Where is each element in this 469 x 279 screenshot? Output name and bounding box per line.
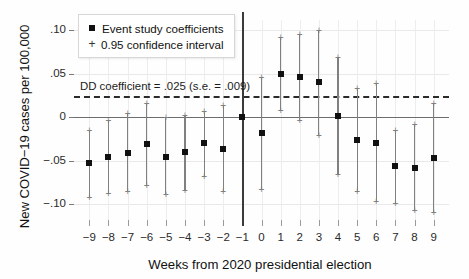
- confidence-interval-cap: +: [163, 193, 169, 194]
- coefficient-point: [105, 154, 111, 160]
- coefficient-point: [125, 150, 131, 156]
- x-axis-title: Weeks from 2020 presidential election: [60, 257, 460, 272]
- chart-legend: Event study coefficients + 0.95 confiden…: [78, 14, 235, 58]
- confidence-interval-cap: +: [86, 197, 92, 198]
- x-tick-mark: [319, 220, 320, 226]
- confidence-interval-cap: +: [86, 129, 92, 130]
- dd-coefficient-annotation: DD coefficient = .025 (s.e. = .009): [80, 80, 250, 92]
- y-tick-mark: [69, 30, 74, 31]
- confidence-interval-cap: +: [182, 190, 188, 191]
- x-tick-mark: [166, 220, 167, 226]
- coefficient-point: [86, 160, 92, 166]
- confidence-interval-cap: +: [354, 87, 360, 88]
- confidence-interval-cap: +: [278, 110, 284, 111]
- legend-label-coefficients: Event study coefficients: [102, 22, 224, 35]
- x-tick-mark: [128, 220, 129, 226]
- confidence-interval-cap: +: [278, 36, 284, 37]
- legend-item-confidence-interval: + 0.95 confidence interval: [87, 36, 224, 52]
- plus-marker-icon: +: [88, 37, 96, 51]
- confidence-interval-cap: +: [220, 105, 226, 106]
- coefficient-point: [201, 140, 207, 146]
- x-tick-mark: [185, 220, 186, 226]
- x-tick-mark: [376, 220, 377, 226]
- coefficient-point: [297, 74, 303, 80]
- confidence-interval-cap: +: [297, 120, 303, 121]
- confidence-interval-cap: +: [412, 124, 418, 125]
- confidence-interval-cap: +: [412, 209, 418, 210]
- confidence-interval-cap: +: [431, 212, 437, 213]
- coefficient-point: [412, 165, 418, 171]
- confidence-interval-cap: +: [220, 191, 226, 192]
- confidence-interval-cap: +: [373, 200, 379, 201]
- coefficient-point: [278, 71, 284, 77]
- y-tick-mark: [69, 74, 74, 75]
- coefficient-point: [182, 149, 188, 155]
- confidence-interval-cap: +: [431, 102, 437, 103]
- coefficient-point: [431, 155, 437, 161]
- coefficient-point: [354, 137, 360, 143]
- coefficient-point: [373, 140, 379, 146]
- confidence-interval-cap: +: [259, 77, 265, 78]
- y-tick-label: −.10: [43, 197, 66, 209]
- confidence-interval-cap: +: [316, 134, 322, 135]
- x-tick-mark: [147, 220, 148, 226]
- confidence-interval-cap: +: [201, 175, 207, 176]
- coefficient-point: [335, 113, 341, 119]
- x-tick-mark: [204, 220, 205, 226]
- confidence-interval-cap: +: [297, 33, 303, 34]
- confidence-interval-cap: +: [316, 30, 322, 31]
- y-tick-label: 0: [60, 110, 66, 122]
- event-study-chart: New COVID−19 cases per 100,000 Weeks fro…: [0, 0, 469, 279]
- x-tick-mark: [434, 220, 435, 226]
- y-tick-mark: [69, 161, 74, 162]
- y-tick-label: .05: [50, 67, 66, 79]
- confidence-interval-cap: +: [125, 113, 131, 114]
- confidence-interval-cap: +: [106, 120, 112, 121]
- confidence-interval-cap: +: [125, 191, 131, 192]
- confidence-interval-cap: +: [259, 188, 265, 189]
- confidence-interval-cap: +: [373, 82, 379, 83]
- confidence-interval-cap: +: [393, 202, 399, 203]
- confidence-interval-cap: +: [201, 111, 207, 112]
- coefficient-point: [144, 141, 150, 147]
- coefficient-point: [392, 163, 398, 169]
- legend-item-coefficients: Event study coefficients: [87, 20, 224, 36]
- coefficient-point: [239, 114, 245, 120]
- x-tick-mark: [223, 220, 224, 226]
- x-tick-mark: [357, 220, 358, 226]
- square-marker-icon: [89, 25, 95, 31]
- x-tick-mark: [415, 220, 416, 226]
- confidence-interval-cap: +: [144, 102, 150, 103]
- confidence-interval-cap: +: [182, 114, 188, 115]
- x-tick-mark: [338, 220, 339, 226]
- x-tick-mark: [395, 220, 396, 226]
- coefficient-point: [163, 154, 169, 160]
- confidence-interval-cap: +: [354, 191, 360, 192]
- x-tick-mark: [300, 220, 301, 226]
- y-tick-label: −.05: [43, 154, 66, 166]
- y-tick-mark: [69, 204, 74, 205]
- x-tick-mark: [108, 220, 109, 226]
- confidence-interval-cap: +: [163, 116, 169, 117]
- x-tick-mark: [89, 220, 90, 226]
- confidence-interval-cap: +: [393, 129, 399, 130]
- coefficient-point: [316, 79, 322, 85]
- confidence-interval-cap: +: [335, 57, 341, 58]
- x-tick-mark: [281, 220, 282, 226]
- confidence-interval-cap: +: [144, 185, 150, 186]
- legend-label-confidence-interval: 0.95 confidence interval: [101, 38, 223, 51]
- coefficient-point: [220, 146, 226, 152]
- y-axis-title: New COVID−19 cases per 100,000: [17, 17, 32, 237]
- coefficient-point: [259, 130, 265, 136]
- confidence-interval-cap: +: [106, 193, 112, 194]
- y-tick-label: .10: [50, 23, 66, 35]
- x-tick-label: 9: [422, 231, 446, 243]
- x-tick-mark: [262, 220, 263, 226]
- confidence-interval-cap: +: [335, 173, 341, 174]
